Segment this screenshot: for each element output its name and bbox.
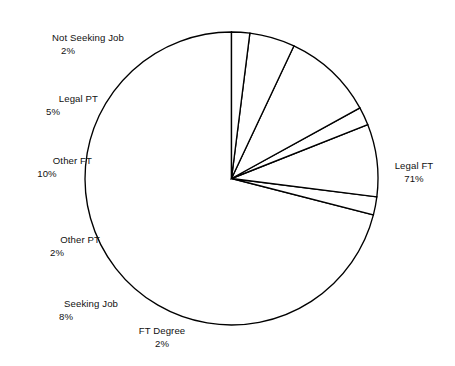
- pie-label-other-ft-name: Other FT: [2, 155, 92, 168]
- pie-label-other-pt: Other PT 2%: [14, 234, 100, 259]
- pie-label-seeking-job: Seeking Job 8%: [14, 298, 118, 323]
- pie-label-legal-ft-name: Legal FT: [381, 160, 447, 173]
- pie-label-legal-pt-value: 5%: [8, 106, 98, 119]
- pie-label-legal-ft-value: 71%: [381, 173, 447, 186]
- pie-slices-group: [85, 32, 378, 325]
- pie-label-other-pt-name: Other PT: [14, 234, 100, 247]
- pie-label-not-seeking-job-name: Not Seeking Job: [12, 32, 124, 45]
- pie-label-ft-degree: FT Degree 2%: [116, 325, 208, 350]
- pie-label-ft-degree-name: FT Degree: [116, 325, 208, 338]
- pie-label-seeking-job-name: Seeking Job: [14, 298, 118, 311]
- pie-label-not-seeking-job: Not Seeking Job 2%: [12, 32, 124, 57]
- pie-label-other-ft-value: 10%: [2, 168, 92, 181]
- pie-label-ft-degree-value: 2%: [116, 338, 208, 351]
- pie-label-seeking-job-value: 8%: [14, 311, 118, 324]
- pie-chart: Not Seeking Job 2% Legal PT 5% Other FT …: [0, 0, 455, 366]
- pie-label-other-ft: Other FT 10%: [2, 155, 92, 180]
- pie-label-not-seeking-job-value: 2%: [12, 45, 124, 58]
- pie-label-legal-ft: Legal FT 71%: [381, 160, 447, 185]
- pie-label-other-pt-value: 2%: [14, 247, 100, 260]
- pie-label-legal-pt-name: Legal PT: [8, 93, 98, 106]
- pie-label-legal-pt: Legal PT 5%: [8, 93, 98, 118]
